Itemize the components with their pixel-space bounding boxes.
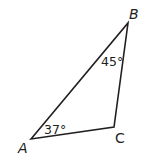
vertex-label-a: A (17, 140, 28, 156)
vertex-label-b: B (129, 6, 139, 22)
angle-label-a: 37° (44, 122, 66, 137)
angle-label-b: 45° (101, 54, 123, 69)
triangle-diagram: B A C 45° 37° (0, 0, 146, 162)
vertex-label-c: C (115, 130, 125, 146)
